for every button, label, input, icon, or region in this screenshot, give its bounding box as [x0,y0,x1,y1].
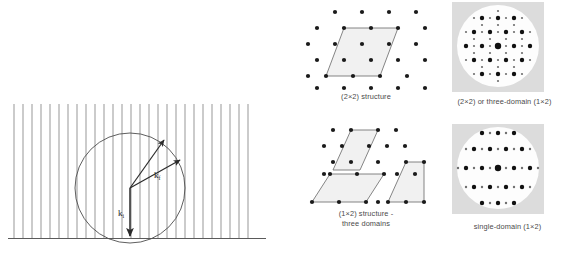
caption-leed-1x2: single-domain (1×2) [438,222,577,232]
caption-structure-2x2: (2×2) structure [306,92,426,102]
unit-cell-1x2-domain-c [388,162,424,202]
ewald-sphere-construction: kf ki [8,104,270,246]
leed-2x2-panel [452,2,544,92]
unit-cell-1x2-domain-b [312,174,384,202]
reciprocal-lattice-rods [14,104,248,238]
caption-structure-1x2: (1×2) structure - three domains [300,209,432,228]
leed-2x2-svg [452,2,544,92]
leed-1x2-panel [452,124,544,214]
leed-1x2-svg [452,124,544,214]
k-incident-label: ki [118,208,125,219]
structure-1x2-panel [300,124,428,208]
structure-1x2-svg [300,124,428,208]
caption-leed-2x2: (2×2) or three-domain (1×2) [432,97,577,107]
structure-2x2-panel [300,2,428,90]
unit-cell-2x2 [326,28,398,76]
structure-2x2-svg [300,2,428,90]
leed-figure: kf ki [0,0,577,264]
ewald-svg: kf ki [8,104,270,246]
unit-cell-1x2-domain-a [333,130,378,170]
